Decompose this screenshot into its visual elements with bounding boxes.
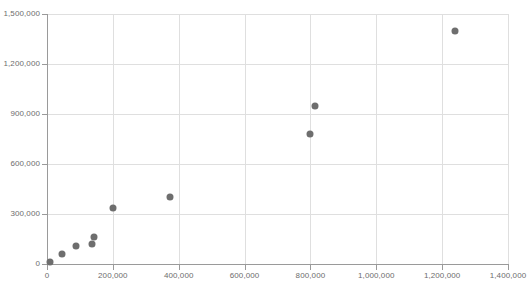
gridline-vertical	[376, 14, 377, 264]
gridline-horizontal	[47, 14, 508, 15]
scatter-chart: 0300,000600,000900,0001,200,0001,500,000…	[0, 0, 528, 292]
x-axis-tick-label: 1,200,000	[424, 271, 461, 280]
gridline-vertical	[113, 14, 114, 264]
y-axis-tick-label: 1,500,000	[0, 9, 40, 19]
y-axis-tick	[42, 14, 47, 15]
x-axis-tick	[245, 265, 246, 270]
x-axis-tick	[113, 265, 114, 270]
data-point[interactable]	[58, 251, 65, 258]
x-axis-tick	[47, 265, 48, 270]
data-point[interactable]	[46, 259, 53, 266]
y-axis-tick-label: 1,200,000	[0, 59, 40, 69]
data-point[interactable]	[307, 131, 314, 138]
x-axis-tick-label: 0	[45, 271, 50, 280]
y-axis-tick	[42, 214, 47, 215]
y-axis-tick-label: 900,000	[0, 109, 40, 119]
y-axis-tick	[42, 64, 47, 65]
data-point[interactable]	[312, 102, 319, 109]
y-axis-tick-label: 0	[0, 259, 40, 269]
y-axis-line	[47, 14, 48, 265]
x-axis-line	[47, 264, 509, 265]
x-axis-tick	[179, 265, 180, 270]
data-point[interactable]	[109, 205, 116, 212]
data-point[interactable]	[452, 27, 459, 34]
y-axis-tick-label-text: 1,500,000	[4, 9, 41, 18]
x-axis-tick-label: 600,000	[230, 271, 260, 280]
y-axis-tick-label: 300,000	[0, 209, 40, 219]
data-point[interactable]	[72, 242, 79, 249]
data-point[interactable]	[167, 194, 174, 201]
y-axis-tick-label-text: 300,000	[10, 209, 40, 218]
data-point[interactable]	[91, 234, 98, 241]
gridline-vertical	[442, 14, 443, 264]
gridline-horizontal	[47, 114, 508, 115]
gridline-vertical	[179, 14, 180, 264]
gridline-horizontal	[47, 64, 508, 65]
x-axis-tick	[508, 265, 509, 270]
x-axis-tick-label: 400,000	[164, 271, 194, 280]
x-axis-tick-label: 1,400,000	[490, 271, 527, 280]
x-axis-tick	[310, 265, 311, 270]
gridline-vertical	[508, 14, 509, 264]
gridline-horizontal	[47, 164, 508, 165]
y-axis-tick	[42, 114, 47, 115]
plot-area	[47, 14, 508, 264]
y-axis-tick-label-text: 900,000	[10, 109, 40, 118]
y-axis-tick-label-text: 0	[35, 259, 40, 268]
y-axis-tick-label-text: 600,000	[10, 159, 40, 168]
gridline-vertical	[245, 14, 246, 264]
x-axis-tick-label: 1,000,000	[358, 271, 395, 280]
data-point[interactable]	[88, 241, 95, 248]
x-axis-tick-label: 800,000	[296, 271, 326, 280]
y-axis-tick	[42, 164, 47, 165]
y-axis-tick-label-text: 1,200,000	[4, 59, 41, 68]
x-axis-tick-label: 200,000	[98, 271, 128, 280]
x-axis-tick	[376, 265, 377, 270]
x-axis-tick	[442, 265, 443, 270]
y-axis-tick-label: 600,000	[0, 159, 40, 169]
gridline-vertical	[310, 14, 311, 264]
gridline-horizontal	[47, 214, 508, 215]
